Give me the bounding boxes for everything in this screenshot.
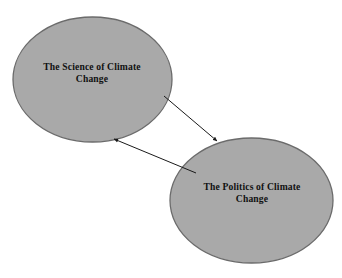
diagram-canvas: The Science of Climate Change The Politi… <box>0 0 342 278</box>
diagram-graphics <box>0 0 342 278</box>
edge-science-to-politics[interactable] <box>164 96 217 141</box>
node-politics[interactable] <box>170 138 333 263</box>
edge-politics-to-science[interactable] <box>114 139 196 173</box>
node-science[interactable] <box>13 17 172 142</box>
